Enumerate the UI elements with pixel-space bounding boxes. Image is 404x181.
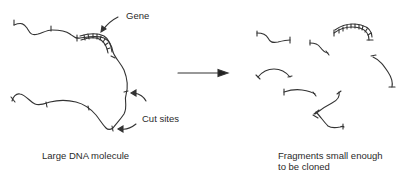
right-caption-line2: to be cloned — [278, 161, 330, 172]
fragment — [256, 69, 292, 79]
fragment — [310, 40, 329, 55]
dna-fragments — [256, 24, 395, 129]
fragment — [371, 55, 395, 87]
right-caption-line1: Fragments small enough — [278, 150, 383, 161]
fragment — [314, 110, 344, 129]
cut-sites-label: Cut sites — [142, 113, 179, 124]
cut-site-pointer-arrows — [118, 90, 146, 132]
fragment — [257, 31, 290, 43]
gene-label: Gene — [126, 10, 149, 21]
fragment-with-gene — [334, 24, 373, 40]
large-dna-molecule — [11, 17, 146, 132]
left-caption: Large DNA molecule — [42, 150, 129, 161]
gene-pointer-arrow — [101, 17, 118, 32]
transform-arrow — [178, 70, 228, 77]
fragment — [284, 89, 316, 96]
dna-cloning-diagram: Gene Cut sites Large DNA molecule Fragme… — [0, 0, 404, 181]
